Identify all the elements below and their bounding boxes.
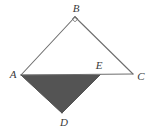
vertex-label-b: B bbox=[73, 3, 80, 14]
vertex-label-a: A bbox=[10, 69, 17, 80]
vertex-label-d: D bbox=[60, 117, 68, 128]
geometry-diagram bbox=[0, 0, 155, 140]
shaded-triangle-aed bbox=[21, 75, 100, 113]
vertex-label-c: C bbox=[137, 71, 144, 82]
geometry-figure: A B C D E bbox=[0, 0, 155, 140]
segment-bc bbox=[75, 17, 133, 74]
segment-ac bbox=[21, 74, 133, 75]
vertex-label-e: E bbox=[96, 60, 103, 71]
segment-ab bbox=[21, 17, 75, 75]
